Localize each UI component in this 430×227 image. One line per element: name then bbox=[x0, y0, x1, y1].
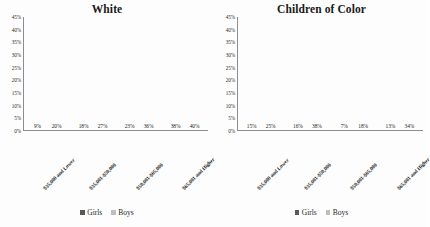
y-tick-label: 20% bbox=[226, 77, 235, 83]
bar-groups-children-of-color: 15% 25% 16% bbox=[238, 17, 423, 130]
bar-group: 38% 40% bbox=[162, 17, 208, 130]
y-tick-label: 15% bbox=[226, 90, 235, 96]
legend-label: Boys bbox=[333, 208, 348, 217]
y-tick-label: 45% bbox=[12, 14, 21, 20]
y-tick-label: 40% bbox=[226, 27, 235, 33]
bar-group: 13% 34% bbox=[377, 17, 423, 130]
legend-label: Girls bbox=[302, 208, 317, 217]
y-tick-label: 25% bbox=[12, 65, 21, 71]
bar-value-label: 23% bbox=[125, 123, 135, 129]
bar-value-label: 34% bbox=[405, 123, 415, 129]
y-tick-label: 40% bbox=[12, 27, 21, 33]
bar-value-label: 9% bbox=[34, 123, 41, 129]
legend-white: Girls Boys bbox=[0, 208, 214, 217]
y-tick-label: 5% bbox=[14, 115, 21, 121]
y-tick-label: 10% bbox=[226, 103, 235, 109]
x-tick-label: $35,001-$50,000 bbox=[88, 162, 117, 191]
bar-group: 16% 38% bbox=[284, 17, 330, 130]
bar-value-label: 38% bbox=[312, 123, 322, 129]
page-title: Children of Color bbox=[214, 3, 429, 15]
x-tick-label: $65,001 and Higher bbox=[181, 156, 216, 191]
page-title: White bbox=[0, 3, 214, 15]
x-tick-label: $35,001-$50,000 bbox=[303, 162, 332, 191]
legend-swatch-icon bbox=[326, 210, 331, 215]
bar-value-label: 38% bbox=[171, 123, 181, 129]
bar-value-label: 13% bbox=[386, 123, 396, 129]
x-axis-white: $35,000 and Lower $35,001-$50,000 $50,00… bbox=[23, 131, 208, 191]
y-tick-label: 35% bbox=[12, 39, 21, 45]
bar-group: 23% 36% bbox=[116, 17, 162, 130]
y-tick-label: 15% bbox=[12, 90, 21, 96]
plot-area-children-of-color: 15% 25% 16% bbox=[237, 17, 423, 131]
chart-panel-children-of-color: Children of Color 45% 40% 35% 30% 25% 20… bbox=[214, 0, 429, 227]
legend-item-boys[interactable]: Boys bbox=[111, 208, 133, 217]
bar-value-label: 16% bbox=[293, 123, 303, 129]
bar-value-label: 40% bbox=[190, 123, 200, 129]
bar-group: 15% 25% bbox=[238, 17, 284, 130]
x-axis-children-of-color: $35,000 and Lower $35,001-$50,000 $50,00… bbox=[237, 131, 423, 191]
y-axis-white: 45% 40% 35% 30% 25% 20% 15% 10% 5% 0% bbox=[0, 17, 22, 131]
legend-swatch-icon bbox=[111, 210, 116, 215]
y-tick-label: 0% bbox=[228, 128, 235, 134]
plot-area-white: 9% 20% 18% 2 bbox=[23, 17, 208, 131]
y-axis-children-of-color: 45% 40% 35% 30% 25% 20% 15% 10% 5% 0% bbox=[214, 17, 236, 131]
bar-group: 7% 18% bbox=[331, 17, 377, 130]
y-tick-label: 20% bbox=[12, 77, 21, 83]
plot-wrapper-children-of-color: 45% 40% 35% 30% 25% 20% 15% 10% 5% 0% 15… bbox=[214, 17, 429, 131]
chart-panel-white: White 45% 40% 35% 30% 25% 20% 15% 10% 5%… bbox=[0, 0, 214, 227]
y-tick-label: 30% bbox=[12, 52, 21, 58]
legend-swatch-icon bbox=[295, 210, 300, 215]
y-tick-label: 0% bbox=[14, 128, 21, 134]
x-tick-label: $35,000 and Lower bbox=[256, 157, 290, 191]
bar-value-label: 7% bbox=[341, 123, 348, 129]
bar-value-label: 15% bbox=[247, 123, 257, 129]
bar-groups-white: 9% 20% 18% 2 bbox=[24, 17, 208, 130]
y-tick-label: 10% bbox=[12, 103, 21, 109]
x-tick-label: $50,001-$65,000 bbox=[349, 162, 378, 191]
x-tick-label: $65,001 and Higher bbox=[396, 156, 430, 191]
y-tick-label: 35% bbox=[226, 39, 235, 45]
y-tick-label: 45% bbox=[226, 14, 235, 20]
y-tick-label: 5% bbox=[228, 115, 235, 121]
y-tick-label: 30% bbox=[226, 52, 235, 58]
bar-value-label: 18% bbox=[358, 123, 368, 129]
legend-children-of-color: Girls Boys bbox=[214, 208, 429, 217]
legend-item-girls[interactable]: Girls bbox=[80, 208, 102, 217]
bar-value-label: 27% bbox=[98, 123, 108, 129]
legend-label: Girls bbox=[87, 208, 102, 217]
legend-label: Boys bbox=[118, 208, 133, 217]
plot-wrapper-white: 45% 40% 35% 30% 25% 20% 15% 10% 5% 0% 9% bbox=[0, 17, 214, 131]
bar-group: 18% 27% bbox=[70, 17, 116, 130]
bar-group: 9% 20% bbox=[24, 17, 70, 130]
y-tick-label: 25% bbox=[226, 65, 235, 71]
legend-item-girls[interactable]: Girls bbox=[295, 208, 317, 217]
bar-value-label: 36% bbox=[144, 123, 154, 129]
bar-value-label: 18% bbox=[79, 123, 89, 129]
x-tick-label: $35,000 and Lower bbox=[42, 157, 76, 191]
legend-item-boys[interactable]: Boys bbox=[326, 208, 348, 217]
bar-value-label: 20% bbox=[52, 123, 62, 129]
bar-value-label: 25% bbox=[266, 123, 276, 129]
legend-swatch-icon bbox=[80, 210, 85, 215]
x-tick-label: $50,001-$65,000 bbox=[134, 162, 163, 191]
